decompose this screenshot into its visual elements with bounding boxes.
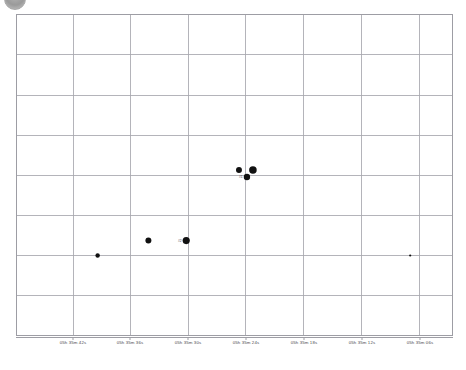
chart-viewport: #2#1 05h 35m 42s05h 35m 36s05h 35m 30s05… (0, 0, 466, 370)
data-point-5[interactable] (249, 166, 257, 174)
x-axis-tick-labels: 05h 35m 42s05h 35m 36s05h 35m 30s05h 35m… (16, 340, 453, 354)
data-point-label-2: #2 (178, 239, 182, 243)
data-point-label-4: #1 (239, 175, 243, 179)
data-point-3[interactable] (236, 167, 242, 173)
data-point-1[interactable] (145, 238, 151, 244)
data-point-2[interactable] (183, 237, 190, 244)
x-tick-label-1: 05h 35m 36s (117, 340, 144, 345)
x-tick-label-6: 05h 35m 06s (407, 340, 434, 345)
x-tick-label-2: 05h 35m 30s (175, 340, 202, 345)
x-tick-label-3: 05h 35m 24s (233, 340, 260, 345)
scatter-plot-area[interactable]: #2#1 (16, 14, 453, 336)
data-point-6[interactable] (409, 254, 411, 256)
x-tick-label-5: 05h 35m 12s (349, 340, 376, 345)
data-point-0[interactable] (95, 253, 99, 257)
x-axis-line (16, 337, 453, 338)
circle-avatar-icon (4, 0, 26, 10)
data-point-4[interactable] (244, 174, 250, 180)
x-tick-label-4: 05h 35m 18s (291, 340, 318, 345)
x-tick-label-0: 05h 35m 42s (60, 340, 87, 345)
data-points-layer[interactable]: #2#1 (17, 15, 452, 335)
